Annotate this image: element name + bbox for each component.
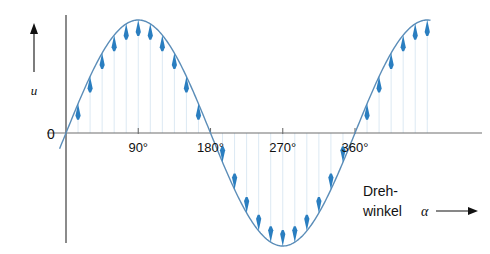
x-axis-tick-label: 360°: [342, 140, 369, 155]
instantaneous-value-arrow: [124, 24, 129, 40]
instantaneous-value-arrow: [75, 104, 80, 120]
instantaneous-value-arrow: [268, 226, 273, 242]
annotation-arrow-head: [468, 207, 478, 215]
instantaneous-value-arrow: [413, 24, 418, 40]
instantaneous-value-arrow: [292, 226, 297, 242]
x-axis-tick-label: 270°: [269, 140, 296, 155]
x-axis-annotation: Dreh- winkel α: [362, 183, 478, 219]
annotation-alpha-symbol: α: [421, 204, 429, 219]
instantaneous-value-arrow: [280, 230, 285, 246]
sine-wave-figure: u 0 90°180°270°360° Dreh- winkel α: [0, 0, 490, 254]
annotation-line-2: winkel: [362, 203, 402, 219]
x-axis-tick-labels: 90°180°270°360°: [128, 140, 368, 155]
chart-axes: [47, 15, 482, 243]
annotation-line-1: Dreh-: [363, 183, 398, 199]
instantaneous-value-arrow: [425, 20, 430, 36]
instantaneous-value-arrow: [136, 20, 141, 36]
instantaneous-value-arrow: [148, 24, 153, 40]
y-axis-label-text: u: [31, 83, 38, 98]
x-axis-tick-label: 180°: [197, 140, 224, 155]
instantaneous-value-arrow: [364, 104, 369, 120]
instantaneous-value-arrow: [196, 104, 201, 120]
y-axis-label: u: [30, 23, 38, 98]
sine-chart-svg: u 0 90°180°270°360° Dreh- winkel α: [0, 0, 490, 254]
y-axis-label-arrow-head: [30, 23, 38, 34]
zero-label: 0: [47, 126, 55, 142]
x-axis-tick-label: 90°: [128, 140, 148, 155]
